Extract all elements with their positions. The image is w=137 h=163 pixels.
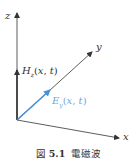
e-vector bbox=[17, 90, 50, 120]
caption-prefix: 図 bbox=[36, 148, 46, 159]
figure-caption: 図5.1電磁波 bbox=[0, 146, 137, 160]
y-axis-label: y bbox=[96, 42, 102, 52]
caption-number: 5.1 bbox=[49, 148, 66, 159]
e-vector-label: Ey(x, t) bbox=[52, 96, 87, 108]
x-axis-label: x bbox=[123, 132, 129, 142]
electromagnetic-wave-diagram bbox=[0, 0, 137, 163]
h-vector-label: Hz(x, t) bbox=[22, 66, 58, 78]
z-axis-label: z bbox=[5, 11, 10, 21]
x-axis bbox=[17, 120, 119, 138]
caption-title: 電磁波 bbox=[71, 148, 101, 159]
